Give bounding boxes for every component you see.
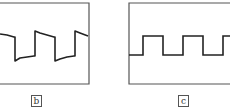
panel-b-tilted-square-wave [0, 31, 88, 61]
panel-c-frame [129, 3, 230, 84]
panel-c [129, 3, 230, 84]
panel-c-square-wave [129, 36, 230, 55]
panel-c-label: c [178, 95, 189, 107]
panel-b-label: b [31, 95, 42, 107]
waveform-figure [0, 0, 230, 108]
panel-b [0, 3, 89, 84]
